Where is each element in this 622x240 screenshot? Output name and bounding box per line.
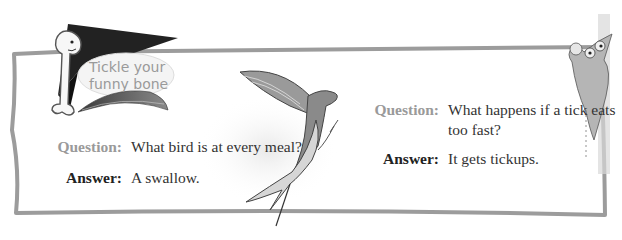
joke-1-answer-row: Answer: A swallow.: [48, 168, 302, 188]
question-text: What happens if a tick eats too fast?: [448, 100, 622, 140]
joke-2-answer-row: Answer: It gets tickups.: [355, 149, 622, 169]
banner-line-1: Tickle your: [88, 59, 165, 75]
answer-text: A swallow.: [131, 168, 200, 188]
answer-label: Answer:: [48, 168, 122, 188]
question-label: Question:: [355, 100, 439, 120]
answer-label: Answer:: [355, 149, 439, 169]
banner-line-2: funny bone: [89, 76, 168, 92]
joke-1-question-row: Question: What bird is at every meal?: [48, 137, 302, 157]
question-label: Question:: [48, 137, 122, 157]
joke-2-question-row: Question: What happens if a tick eats to…: [355, 100, 622, 140]
question-text: What bird is at every meal?: [131, 137, 302, 157]
joke-2: Question: What happens if a tick eats to…: [355, 100, 622, 169]
joke-1: Question: What bird is at every meal? An…: [48, 137, 302, 188]
tickle-banner-logo: Tickle your funny bone: [52, 24, 178, 115]
answer-text: It gets tickups.: [448, 149, 622, 169]
